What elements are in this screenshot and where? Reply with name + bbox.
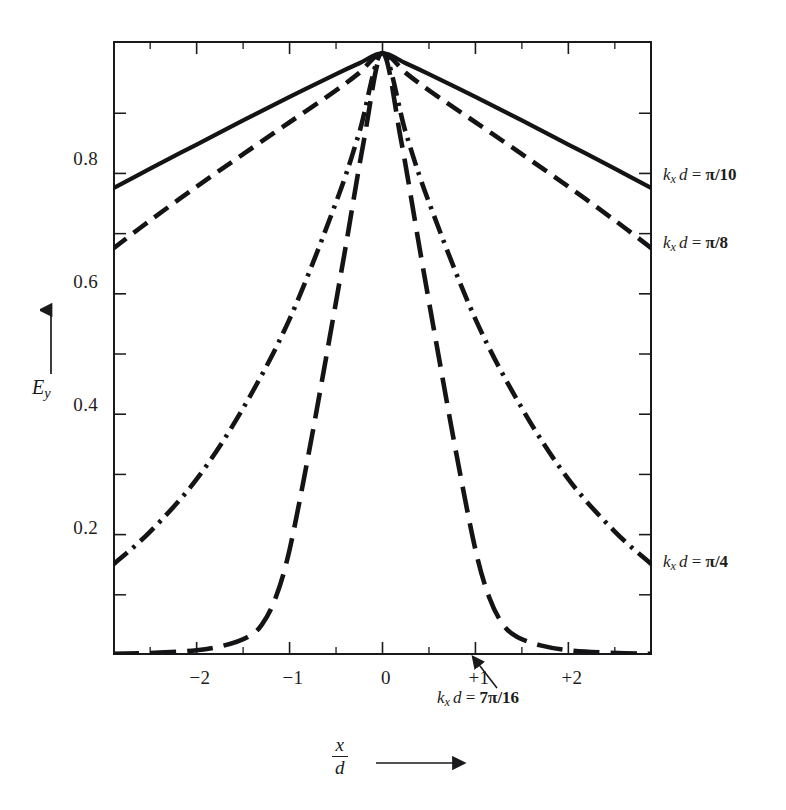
series-label-pi-over-8: kxd = π/8 (663, 233, 728, 255)
y-tick-label-0: 0.8 (46, 148, 98, 170)
series-label-k: k (663, 552, 671, 571)
series-label-pi-over-4: kxd = π/4 (663, 552, 728, 574)
callout-eq: = (461, 688, 479, 707)
callout-k: k (437, 688, 445, 707)
x-tick-label-2: 0 (356, 667, 416, 689)
series-label-k: k (663, 165, 671, 184)
series-label-eq: = (687, 165, 705, 184)
x-axis-title-denominator: d (332, 757, 348, 778)
callout-label-7pi-over-16: kxd = 7π/16 (437, 688, 519, 710)
x-axis-title-fraction: x d (332, 735, 348, 778)
series-label-value: π/4 (706, 552, 729, 571)
x-tick-label-1: −1 (263, 667, 323, 689)
callout-subscript: x (445, 695, 450, 709)
y-tick-label-1: 0.6 (46, 271, 98, 293)
series-label-eq: = (687, 552, 705, 571)
x-axis-title: x d (332, 735, 522, 795)
y-axis-title: Ey (24, 300, 84, 420)
x-tick-label-0: −2 (170, 667, 230, 689)
x-axis-title-numerator: x (332, 735, 348, 757)
series-label-k: k (663, 233, 671, 252)
series-label-value: π/10 (706, 165, 737, 184)
series-label-value: π/8 (706, 233, 729, 252)
callout-value: 7π/16 (480, 688, 520, 707)
figure-canvas: 0.8 0.6 0.4 0.2 −2 −1 0 +1 +2 kxd = π/10… (0, 0, 786, 810)
series-label-subscript: x (671, 559, 676, 573)
y-axis-title-subscript: y (44, 385, 50, 401)
y-tick-label-3: 0.2 (46, 517, 98, 539)
series-label-subscript: x (671, 240, 676, 254)
series-label-eq: = (687, 233, 705, 252)
right-arrow-icon (372, 751, 482, 775)
up-arrow-icon (40, 300, 70, 380)
y-axis-title-E: E (32, 376, 44, 398)
series-label-subscript: x (671, 172, 676, 186)
series-label-pi-over-10: kxd = π/10 (663, 165, 737, 187)
callout-arrow-icon (440, 630, 560, 730)
y-axis-title-text: Ey (32, 376, 51, 402)
